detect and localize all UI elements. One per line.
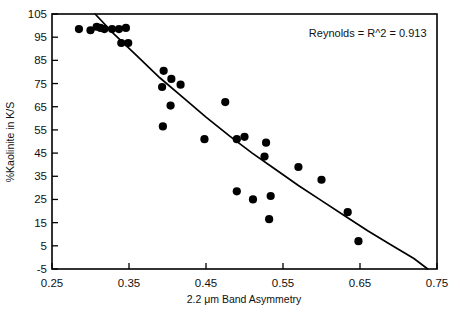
data-point	[317, 176, 325, 184]
y-axis-ticks	[52, 14, 58, 269]
regression-curve-group	[95, 14, 428, 269]
y-tick-label: 55	[34, 124, 47, 136]
data-point	[160, 67, 168, 75]
data-point	[233, 187, 241, 195]
data-point	[159, 122, 167, 130]
data-point	[166, 101, 174, 109]
regression-curve	[95, 14, 428, 269]
data-point	[262, 139, 270, 147]
data-point	[115, 25, 123, 33]
data-point	[124, 39, 132, 47]
y-tick-label: 15	[34, 217, 47, 229]
data-point	[344, 208, 352, 216]
x-tick-label: 0.65	[349, 277, 371, 289]
x-axis-tick-labels: 0.250.350.450.550.650.75	[41, 277, 448, 289]
data-point	[294, 163, 302, 171]
data-point	[267, 192, 275, 200]
chart-annotation-text: Reynolds = R^2 = 0.913	[309, 27, 427, 39]
y-axis-title: %Kaolinite in K/S	[4, 102, 16, 183]
chart-annotations: Reynolds = R^2 = 0.913	[309, 27, 427, 39]
y-tick-label: 25	[34, 193, 47, 205]
data-point	[265, 215, 273, 223]
x-tick-label: 0.35	[118, 277, 140, 289]
data-point	[176, 81, 184, 89]
y-tick-label: 65	[34, 101, 47, 113]
y-tick-label: 35	[34, 170, 47, 182]
y-axis-tick-labels: -55152535455565758595105	[28, 8, 47, 275]
data-point	[260, 152, 268, 160]
x-tick-label: 0.45	[195, 277, 217, 289]
x-axis-ticks	[52, 263, 437, 269]
plot-frame	[52, 14, 437, 269]
data-point	[233, 135, 241, 143]
data-point	[200, 135, 208, 143]
chart-canvas: -55152535455565758595105 0.250.350.450.5…	[0, 0, 460, 317]
data-point	[354, 237, 362, 245]
scatter-plot-figure: -55152535455565758595105 0.250.350.450.5…	[0, 0, 460, 317]
data-point	[100, 25, 108, 33]
y-tick-label: 45	[34, 147, 47, 159]
y-tick-label: 105	[28, 8, 47, 20]
y-tick-label: 75	[34, 78, 47, 90]
data-point	[158, 83, 166, 91]
x-axis-title: 2.2 μm Band Asymmetry	[187, 293, 302, 305]
x-tick-label: 0.55	[272, 277, 294, 289]
x-tick-label: 0.25	[41, 277, 63, 289]
axes-frame	[52, 14, 437, 269]
y-tick-label: 5	[41, 240, 47, 252]
y-tick-label: -5	[37, 263, 47, 275]
data-point	[221, 98, 229, 106]
y-tick-label: 85	[34, 54, 47, 66]
x-tick-label: 0.75	[426, 277, 448, 289]
data-point	[122, 24, 130, 32]
data-point	[249, 195, 257, 203]
y-tick-label: 95	[34, 31, 47, 43]
data-points-group	[75, 23, 363, 246]
data-point	[75, 25, 83, 33]
data-point	[167, 75, 175, 83]
data-point	[240, 133, 248, 141]
